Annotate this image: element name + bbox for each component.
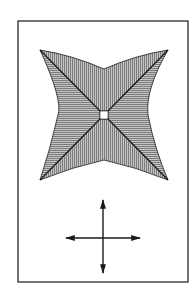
star-shape — [40, 50, 168, 180]
diagram-canvas — [0, 0, 193, 291]
four-direction-arrows-icon — [66, 200, 140, 273]
star-center-square — [100, 111, 108, 119]
